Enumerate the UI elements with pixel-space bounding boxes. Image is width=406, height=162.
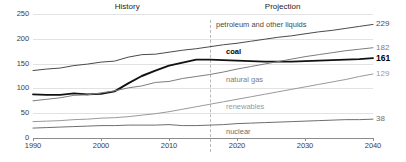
history-period-label: History [115, 3, 140, 11]
y-tick-100: 100 [0, 84, 29, 92]
y-tick-250: 250 [0, 10, 29, 18]
series-label-coal: coal [226, 48, 241, 56]
line-petroleum-and-other-liquids [33, 24, 373, 70]
projection-period-label: Projection [265, 3, 301, 11]
end-value-renewables: 129 [376, 70, 389, 78]
x-tick-1990: 1990 [13, 142, 53, 150]
series-label-renewables: renewables [226, 103, 264, 111]
x-tick-2010: 2010 [149, 142, 189, 150]
line-coal [33, 58, 373, 95]
energy-consumption-chart: History Projection 050100150200250 19902… [0, 0, 406, 162]
x-tick-2040: 2040 [353, 142, 393, 150]
line-renewables [33, 74, 373, 122]
plot-area [33, 14, 373, 138]
end-value-nuclear: 38 [376, 115, 385, 123]
end-value-coal: 161 [376, 54, 390, 63]
x-tick-2030: 2030 [285, 142, 325, 150]
line-nuclear [33, 119, 373, 128]
y-tick-150: 150 [0, 60, 29, 68]
y-tick-200: 200 [0, 35, 29, 43]
end-value-natural-gas: 182 [376, 44, 389, 52]
x-tick-2020: 2020 [217, 142, 257, 150]
series-label-natural-gas: natural gas [226, 76, 263, 84]
axis-line-zero [33, 138, 373, 139]
series-label-petroleum-and-other-liquids: petroleum and other liquids [216, 21, 306, 29]
series-label-nuclear: nuclear [226, 128, 251, 136]
x-tick-2000: 2000 [81, 142, 121, 150]
y-tick-50: 50 [0, 109, 29, 117]
line-natural-gas [33, 48, 373, 101]
end-value-petroleum-and-other-liquids: 229 [376, 20, 389, 28]
series-lines [33, 14, 373, 138]
